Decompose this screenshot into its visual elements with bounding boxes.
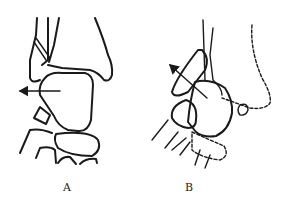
- panel-b-label: B: [185, 181, 193, 194]
- panel-a-metacarpal-1: [20, 129, 52, 153]
- panel-a-carpal-lower: [55, 133, 99, 156]
- panel-b-ulna: [172, 50, 207, 96]
- panel-b: [152, 20, 270, 168]
- panel-b-metacarpals: [152, 120, 210, 168]
- panel-a-bar-2: [49, 18, 59, 62]
- panel-a-metacarpal-4: [80, 159, 97, 164]
- panel-b-carpal-left: [172, 100, 197, 128]
- panel-a-metacarpal-3: [58, 157, 76, 164]
- panel-a: [20, 18, 112, 164]
- panel-a-label: A: [63, 181, 71, 194]
- panel-a-carpal-small: [34, 107, 50, 124]
- wrist-diagram: [0, 0, 290, 208]
- panel-a-metacarpal-2: [36, 147, 56, 163]
